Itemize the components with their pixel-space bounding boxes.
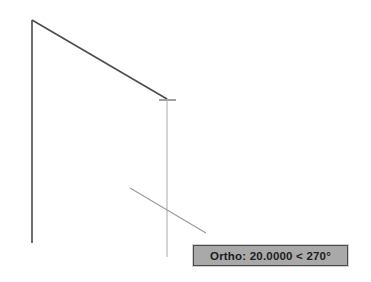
cad-drawing-canvas[interactable]: Ortho: 20.0000 < 270° xyxy=(0,0,371,282)
dynamic-input-tooltip: Ortho: 20.0000 < 270° xyxy=(193,245,348,266)
drawing-viewport[interactable] xyxy=(0,0,371,282)
tooltip-text: Ortho: 20.0000 < 270° xyxy=(210,250,331,262)
crosshair-horizontal-arm-icon xyxy=(130,188,206,233)
existing-diagonal-line[interactable] xyxy=(32,20,167,99)
